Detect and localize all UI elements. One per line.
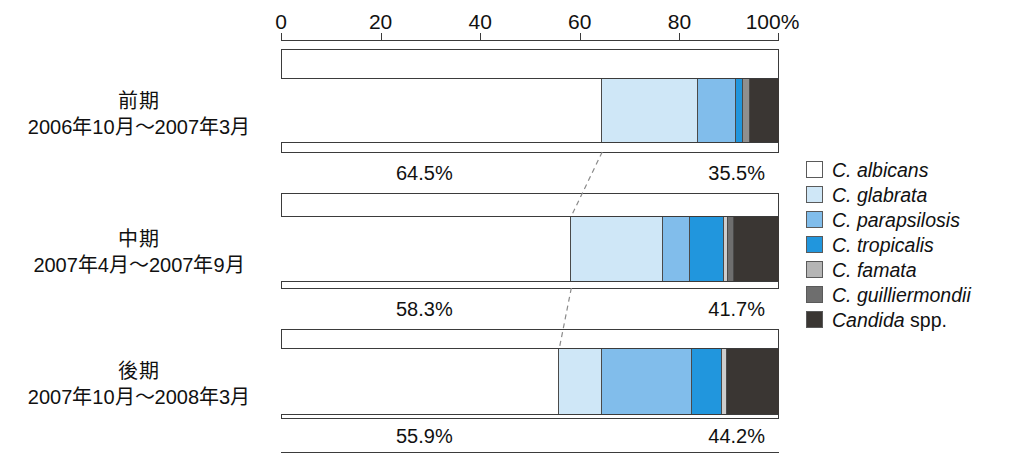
axis-tick-label: 60 bbox=[568, 10, 591, 34]
axis-tick-label: 100% bbox=[746, 10, 800, 34]
axis-tick-mark bbox=[778, 33, 779, 41]
bar-segment bbox=[743, 79, 750, 142]
non-albicans-percent-label: 35.5% bbox=[708, 162, 765, 184]
bar-segment bbox=[559, 349, 602, 414]
non-albicans-percent-label: 44.2% bbox=[708, 425, 765, 447]
axis-tick-label: 0 bbox=[275, 10, 287, 34]
legend-label-suffix: spp. bbox=[905, 309, 947, 331]
legend-label: C. famata bbox=[832, 259, 917, 281]
axis-tick-mark bbox=[281, 33, 282, 41]
albicans-percent-label: 55.9% bbox=[396, 425, 453, 447]
stacked-bar-chart: 020406080100% 64.5%35.5%58.3%41.7%55.9%4… bbox=[0, 0, 1011, 470]
legend-item: C. tropicalis bbox=[806, 232, 1006, 257]
legend-swatch-icon bbox=[806, 186, 823, 203]
legend-swatch-icon bbox=[806, 261, 823, 278]
legend-label: C. tropicalis bbox=[832, 234, 934, 256]
bar-segment bbox=[698, 79, 736, 142]
axis-tick-label: 80 bbox=[668, 10, 691, 34]
albicans-percent-label: 64.5% bbox=[396, 162, 453, 184]
summary-row: 64.5%35.5% bbox=[281, 152, 779, 194]
period-label-line1: 後期 bbox=[8, 358, 270, 384]
legend-swatch-icon bbox=[806, 161, 823, 178]
axis-tick-mark bbox=[580, 33, 581, 41]
axis-tick-mark bbox=[679, 33, 680, 41]
bar-segment bbox=[281, 217, 571, 281]
axis-tick-mark bbox=[480, 33, 481, 41]
period-label: 前期2006年10月～2007年3月 bbox=[8, 88, 270, 140]
legend-label: C. guilliermondii bbox=[832, 284, 971, 306]
albicans-percent-label: 58.3% bbox=[396, 298, 453, 320]
period-label-line2: 2007年4月～2007年9月 bbox=[8, 252, 270, 278]
bar-segment bbox=[663, 217, 690, 281]
bar-segment bbox=[727, 349, 779, 414]
bar-segment bbox=[736, 79, 743, 142]
legend-swatch-icon bbox=[806, 211, 823, 228]
period-label-line1: 前期 bbox=[8, 88, 270, 114]
bar-segment bbox=[750, 79, 779, 142]
period-label: 後期2007年10月～2008年3月 bbox=[8, 358, 270, 410]
axis-tick-label: 40 bbox=[469, 10, 492, 34]
legend-label-genus: Candida bbox=[832, 309, 905, 331]
bar-segment bbox=[734, 217, 779, 281]
legend-item: Candida spp. bbox=[806, 307, 1006, 332]
legend-label: C. parapsilosis bbox=[832, 209, 960, 231]
legend-item-list: C. albicansC. glabrataC. parapsilosisC. … bbox=[806, 157, 1006, 332]
bar-segment bbox=[690, 217, 724, 281]
summary-row: 58.3%41.7% bbox=[281, 288, 779, 330]
axis-tick-label: 20 bbox=[369, 10, 392, 34]
stacked-bar bbox=[281, 216, 779, 282]
period-label-line1: 中期 bbox=[8, 226, 270, 252]
bar-segment bbox=[692, 349, 722, 414]
legend-item: C. guilliermondii bbox=[806, 282, 1006, 307]
summary-row: 55.9%44.2% bbox=[281, 418, 779, 453]
legend: C. albicansC. glabrataC. parapsilosisC. … bbox=[806, 157, 1006, 332]
bar-segment bbox=[281, 79, 602, 142]
bar-segment bbox=[571, 217, 663, 281]
period-label: 中期2007年4月～2007年9月 bbox=[8, 226, 270, 278]
x-axis: 020406080100% bbox=[281, 10, 779, 50]
stacked-bar bbox=[281, 78, 779, 143]
legend-item: C. famata bbox=[806, 257, 1006, 282]
axis-line bbox=[281, 40, 779, 41]
legend-item: C. glabrata bbox=[806, 182, 1006, 207]
legend-swatch-icon bbox=[806, 286, 823, 303]
non-albicans-percent-label: 41.7% bbox=[708, 298, 765, 320]
bar-segment bbox=[602, 349, 692, 414]
legend-label: C. glabrata bbox=[832, 184, 927, 206]
period-label-line2: 2006年10月～2007年3月 bbox=[8, 114, 270, 140]
period-label-line2: 2007年10月～2008年3月 bbox=[8, 384, 270, 410]
legend-swatch-icon bbox=[806, 236, 823, 253]
bar-segment bbox=[281, 349, 559, 414]
legend-label: C. albicans bbox=[832, 159, 928, 181]
bar-segment bbox=[602, 79, 698, 142]
legend-swatch-icon bbox=[806, 311, 823, 328]
stacked-bar bbox=[281, 348, 779, 415]
legend-label: Candida spp. bbox=[832, 309, 947, 331]
legend-item: C. albicans bbox=[806, 157, 1006, 182]
axis-tick-mark bbox=[381, 33, 382, 41]
legend-item: C. parapsilosis bbox=[806, 207, 1006, 232]
